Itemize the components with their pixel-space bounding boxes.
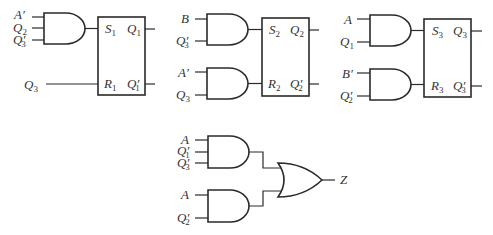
or-gate — [278, 163, 322, 197]
and-gate-1 — [44, 13, 85, 44]
and-gate-3a — [370, 15, 411, 46]
label-g2b-in2: Q3 — [176, 87, 190, 104]
label-g2b-in1: A′ — [177, 65, 189, 80]
label-g4b-in1: A — [180, 187, 189, 202]
label-g3b-in1: B′ — [342, 66, 353, 81]
label-g2a-in2: Q′3 — [176, 33, 189, 50]
and-gate-2b — [207, 68, 248, 99]
label-g4b-in2: Q′2 — [177, 210, 190, 227]
label-q3-prime: Q′3 — [453, 78, 466, 95]
label-r1-input: Q3 — [24, 77, 38, 94]
label-g3a-in2: Q1 — [340, 34, 354, 51]
label-q2-prime: Q′2 — [290, 76, 303, 93]
label-q1-prime: Q′1 — [127, 76, 140, 93]
label-g3b-in2: Q′2 — [340, 88, 353, 105]
and-gate-4b — [208, 190, 249, 222]
label-output-z: Z — [340, 172, 348, 187]
and-gate-3b — [370, 69, 411, 100]
label-g1-in3: Q′3 — [13, 32, 26, 49]
label-g3a-in1: A — [343, 12, 352, 27]
label-g4a-in3: Q′3 — [177, 155, 190, 172]
label-g2a-in1: B — [181, 11, 189, 26]
circuit-diagram: A′ Q2 Q′3 Q3 S1 Q1 R1 Q′1 B Q′3 A′ Q3 S2… — [0, 0, 493, 235]
and-gate-4a — [208, 136, 249, 168]
and-gate-2a — [207, 14, 248, 45]
